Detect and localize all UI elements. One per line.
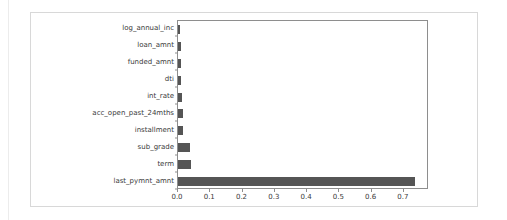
bar-sub_grade <box>178 143 190 152</box>
x-tick-label-0.3: 0.3 <box>268 194 279 201</box>
bar-row <box>178 55 181 72</box>
page-edge-rule <box>8 0 9 220</box>
y-tick-mark <box>175 120 178 121</box>
plot-area <box>177 20 428 189</box>
x-tick-label-0.4: 0.4 <box>300 194 311 201</box>
y-tick-mark <box>175 104 178 105</box>
y-tick-mark <box>175 171 178 172</box>
bar-funded_amnt <box>178 59 181 68</box>
x-axis-ticks: 0.00.10.20.30.40.50.60.7 <box>177 189 428 207</box>
y-tick-label-log_annual_inc: log_annual_inc <box>34 25 174 32</box>
bar-row <box>178 106 183 123</box>
x-tick-mark <box>371 189 372 192</box>
y-tick-label-last_pymnt_amnt: last_pymnt_amnt <box>34 177 174 184</box>
bar-row <box>178 72 181 89</box>
x-tick-label-0.1: 0.1 <box>204 194 215 201</box>
x-tick-mark <box>209 189 210 192</box>
y-tick-label-term: term <box>34 160 174 167</box>
bar-last_pymnt_amnt <box>178 177 415 186</box>
bar-loan_amnt <box>178 42 181 51</box>
bar-row <box>178 38 181 55</box>
bar-acc_open_past_24mths <box>178 109 183 118</box>
bar-dti <box>178 76 181 85</box>
y-tick-mark <box>175 137 178 138</box>
x-tick-label-0.6: 0.6 <box>365 194 376 201</box>
x-tick-mark <box>177 189 178 192</box>
bar-term <box>178 160 191 169</box>
x-tick-label-0.7: 0.7 <box>397 194 408 201</box>
figure-card: log_annual_incloan_amntfunded_amntdtiint… <box>30 12 478 207</box>
y-tick-label-sub_grade: sub_grade <box>34 143 174 150</box>
x-tick-mark <box>274 189 275 192</box>
bar-installment <box>178 126 183 135</box>
x-tick-mark <box>242 189 243 192</box>
y-tick-mark <box>175 53 178 54</box>
bar-row <box>178 139 190 156</box>
bars-layer <box>178 21 427 188</box>
y-tick-mark <box>175 36 178 37</box>
x-tick-label-0.2: 0.2 <box>236 194 247 201</box>
y-tick-label-funded_amnt: funded_amnt <box>34 59 174 66</box>
x-tick-label-0.0: 0.0 <box>171 194 182 201</box>
y-tick-mark <box>175 70 178 71</box>
bar-row <box>178 122 183 139</box>
bar-log_annual_inc <box>178 25 180 34</box>
x-tick-mark <box>306 189 307 192</box>
y-tick-mark <box>175 154 178 155</box>
y-tick-label-dti: dti <box>34 76 174 83</box>
bar-row <box>178 21 180 38</box>
y-tick-label-int_rate: int_rate <box>34 93 174 100</box>
y-tick-label-installment: installment <box>34 126 174 133</box>
x-tick-mark <box>338 189 339 192</box>
y-axis-labels: log_annual_incloan_amntfunded_amntdtiint… <box>31 20 174 189</box>
bar-row <box>178 173 415 190</box>
y-tick-label-loan_amnt: loan_amnt <box>34 42 174 49</box>
x-tick-label-0.5: 0.5 <box>333 194 344 201</box>
x-tick-mark <box>403 189 404 192</box>
y-tick-mark <box>175 87 178 88</box>
y-tick-label-acc_open_past_24mths: acc_open_past_24mths <box>34 109 174 116</box>
bar-row <box>178 156 191 173</box>
bar-int_rate <box>178 93 182 102</box>
bar-row <box>178 89 182 106</box>
